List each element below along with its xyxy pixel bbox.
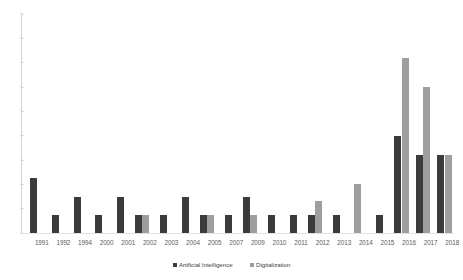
bar-digitalization (315, 201, 322, 233)
bar-artificial-intelligence (225, 215, 232, 233)
bar-group (113, 14, 128, 233)
bar-digitalization (207, 215, 214, 233)
bar-digitalization (402, 58, 409, 233)
chart-legend: Artificial IntelligenceDigitalization (0, 259, 463, 271)
bar-group (156, 14, 171, 233)
bar-artificial-intelligence (308, 215, 315, 233)
bar-group (351, 14, 366, 233)
bar-group (437, 14, 452, 233)
x-axis-tick-label: 2018 (437, 238, 463, 247)
bar-artificial-intelligence (290, 215, 297, 233)
bar-artificial-intelligence (437, 155, 444, 233)
bar-group (329, 14, 344, 233)
bar-artificial-intelligence (416, 155, 423, 233)
bar-group (264, 14, 279, 233)
bar-group (221, 14, 236, 233)
bar-artificial-intelligence (74, 197, 81, 234)
bar-group (178, 14, 193, 233)
legend-label: Artificial Intelligence (179, 261, 233, 269)
bar-artificial-intelligence (268, 215, 275, 233)
bar-group (92, 14, 107, 233)
bar-chart: 0123456789 19911992199420002001200220032… (0, 0, 463, 280)
bar-artificial-intelligence (182, 197, 189, 234)
bar-group (200, 14, 215, 233)
x-axis-line (21, 233, 454, 234)
bar-group (286, 14, 301, 233)
bar-digitalization (354, 184, 361, 233)
bar-artificial-intelligence (95, 215, 102, 233)
legend-item[interactable]: Artificial Intelligence (173, 261, 233, 269)
bar-artificial-intelligence (52, 215, 59, 233)
legend-swatch-icon (173, 263, 177, 267)
plot-area (22, 14, 454, 233)
legend-item[interactable]: Digitalization (250, 261, 291, 269)
bar-artificial-intelligence (30, 178, 37, 233)
bar-artificial-intelligence (135, 215, 142, 233)
bar-group (308, 14, 323, 233)
legend-swatch-icon (250, 263, 254, 267)
bar-group (48, 14, 63, 233)
bar-group (135, 14, 150, 233)
bar-artificial-intelligence (333, 215, 340, 233)
bar-group (372, 14, 387, 233)
bar-artificial-intelligence (160, 215, 167, 233)
bar-digitalization (250, 215, 257, 233)
bar-group (243, 14, 258, 233)
bar-artificial-intelligence (117, 197, 124, 234)
bar-artificial-intelligence (243, 197, 250, 234)
bar-group (70, 14, 85, 233)
bar-artificial-intelligence (200, 215, 207, 233)
x-axis-tick-labels: 1991199219942000200120022003200420052007… (22, 238, 454, 250)
bar-group (416, 14, 431, 233)
legend-label: Digitalization (256, 261, 290, 269)
bar-artificial-intelligence (376, 215, 383, 233)
bar-digitalization (142, 215, 149, 233)
bar-group (27, 14, 42, 233)
bar-digitalization (423, 87, 430, 233)
bar-group (394, 14, 409, 233)
bar-artificial-intelligence (394, 136, 401, 233)
bar-digitalization (445, 155, 452, 233)
